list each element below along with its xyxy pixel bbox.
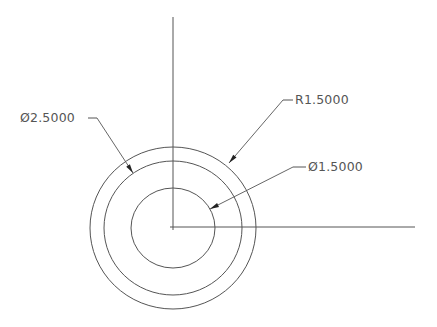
cad-drawing-canvas: Ø2.5000 R1.5000 Ø1.5000 [0,0,437,327]
dimension-label-diameter-inner: Ø1.5000 [308,159,363,174]
dimension-label-radius-middle: R1.5000 [295,92,349,107]
dimension-label-diameter-outer: Ø2.5000 [20,110,75,125]
